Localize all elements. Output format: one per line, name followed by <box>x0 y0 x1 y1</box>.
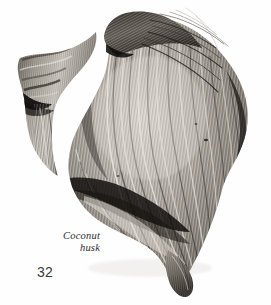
caption-line-2: husk <box>30 242 100 254</box>
caption-line-1: Coconut <box>30 230 100 242</box>
book-page: Coconut husk 32 <box>0 0 271 305</box>
page-number: 32 <box>37 264 53 280</box>
photo-caption: Coconut husk <box>30 230 100 253</box>
coconut-husk-photo <box>0 0 271 305</box>
